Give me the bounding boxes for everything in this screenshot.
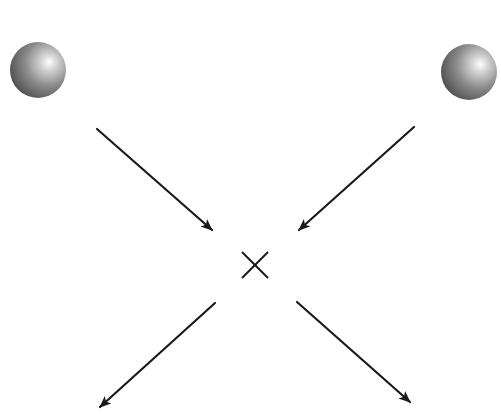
arrows (97, 127, 414, 407)
interaction-point-x-icon (242, 252, 268, 278)
incoming-arrow-left (97, 129, 212, 230)
sphere-right (441, 44, 497, 100)
diagram-canvas (0, 0, 501, 417)
sphere-left (10, 42, 66, 98)
outgoing-arrow-left (100, 303, 215, 407)
spheres (10, 42, 497, 100)
collision-diagram: Two spheres with incoming arrows converg… (0, 0, 501, 417)
incoming-arrow-right (299, 127, 414, 230)
outgoing-arrow-right (297, 302, 410, 402)
